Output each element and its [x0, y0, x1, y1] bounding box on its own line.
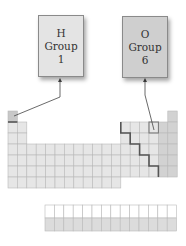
element-cell [121, 155, 130, 166]
element-cell [93, 177, 102, 188]
element-cell [17, 133, 26, 144]
element-cell [27, 177, 36, 188]
element-cell [93, 155, 102, 166]
element-cell [121, 144, 130, 155]
element-cell [168, 122, 177, 133]
element-cell [74, 166, 83, 177]
element-cell [158, 144, 167, 155]
f-block-cell [92, 205, 101, 218]
element-cell [130, 144, 139, 155]
f-block-cell [120, 218, 129, 231]
element-cell [8, 144, 17, 155]
f-block-cell [64, 205, 73, 218]
f-block-cell [139, 205, 148, 218]
element-cell [8, 166, 17, 177]
element-cell [111, 166, 120, 177]
element-cell [83, 177, 92, 188]
element-cell [83, 144, 92, 155]
f-block-cell [45, 218, 54, 231]
element-cell [121, 122, 130, 133]
element-cell [121, 133, 130, 144]
element-cell [149, 133, 158, 144]
f-block-cell [167, 205, 176, 218]
element-cell [102, 177, 111, 188]
element-cell [55, 177, 64, 188]
element-cell [168, 166, 177, 177]
element-cell [140, 144, 149, 155]
element-cell [8, 177, 17, 188]
f-block-cell [64, 218, 73, 231]
f-block-cell [111, 205, 120, 218]
element-cell [149, 144, 158, 155]
f-block-cell [148, 218, 157, 231]
f-block-cell [73, 218, 82, 231]
element-cell [140, 122, 149, 133]
element-cell [8, 155, 17, 166]
callout-hydrogen: H Group 1 [38, 15, 84, 77]
element-cell [111, 144, 120, 155]
element-cell [17, 122, 26, 133]
element-cell [121, 166, 130, 177]
f-block-cell [120, 205, 129, 218]
element-cell [140, 133, 149, 144]
f-block-cell [130, 205, 139, 218]
element-cell [46, 144, 55, 155]
group-label: Group [44, 40, 77, 53]
element-cell [168, 144, 177, 155]
element-cell [74, 155, 83, 166]
f-block-cell [158, 205, 167, 218]
element-cell [36, 155, 45, 166]
group-number: 6 [142, 54, 149, 67]
f-block-cell [139, 218, 148, 231]
element-cell [27, 144, 36, 155]
f-block-cell [101, 218, 110, 231]
arrow-hydrogen [14, 80, 60, 116]
f-block-cell [83, 218, 92, 231]
element-cell [17, 155, 26, 166]
f-block-cell [54, 218, 63, 231]
element-cell [64, 144, 73, 155]
element-cell [83, 166, 92, 177]
element-cell [74, 144, 83, 155]
f-block-cell [167, 218, 176, 231]
element-cell [158, 155, 167, 166]
element-cell [140, 155, 149, 166]
element-symbol: O [141, 28, 150, 41]
element-symbol: H [56, 27, 65, 40]
arrowhead-icon [58, 78, 62, 82]
element-cell [8, 133, 17, 144]
element-cell [36, 144, 45, 155]
element-cell [55, 144, 64, 155]
group-number: 1 [58, 53, 65, 66]
element-cell [93, 166, 102, 177]
element-cell [36, 177, 45, 188]
element-cell [130, 122, 139, 133]
element-cell [111, 155, 120, 166]
f-block-cell [92, 218, 101, 231]
f-block-cell [111, 218, 120, 231]
element-cell [46, 155, 55, 166]
element-cell [46, 177, 55, 188]
element-cell [46, 166, 55, 177]
element-cell [102, 144, 111, 155]
element-cell [8, 122, 17, 133]
element-cell [102, 166, 111, 177]
element-cell [140, 166, 149, 177]
element-cell [55, 166, 64, 177]
element-cell [74, 177, 83, 188]
element-cell [168, 133, 177, 144]
element-cell [64, 166, 73, 177]
element-cell [64, 155, 73, 166]
f-block-cell [158, 218, 167, 231]
element-cell [27, 155, 36, 166]
element-cell [17, 177, 26, 188]
f-block-cell [83, 205, 92, 218]
f-block-cell [148, 205, 157, 218]
element-cell [158, 122, 167, 133]
element-cell [168, 155, 177, 166]
f-block-cell [45, 205, 54, 218]
f-block-cell [54, 205, 63, 218]
element-cell [83, 155, 92, 166]
element-cell [168, 111, 177, 122]
group-label: Group [128, 41, 161, 54]
